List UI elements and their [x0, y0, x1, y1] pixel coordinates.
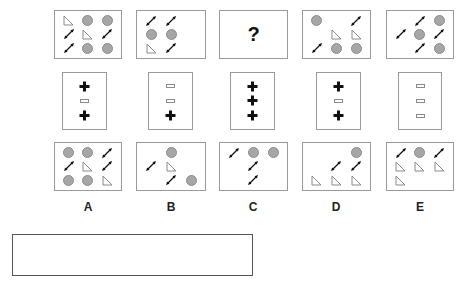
- circle-icon: [311, 15, 322, 26]
- top-box-question: ?: [219, 10, 288, 59]
- question-mark: ?: [220, 11, 287, 58]
- circle-icon: [102, 15, 113, 26]
- grid-cell: [161, 160, 181, 174]
- triangle-icon: [414, 161, 425, 172]
- option-e[interactable]: [386, 142, 454, 191]
- double-arrow-icon: [63, 160, 75, 172]
- rectangle-icon: [416, 99, 425, 103]
- option-label-a: A: [54, 200, 122, 214]
- grid-cell: [98, 28, 117, 42]
- shape-column: [317, 79, 360, 123]
- triangle-icon: [351, 175, 362, 186]
- double-arrow-icon: [145, 15, 157, 27]
- double-arrow-icon: [395, 28, 407, 40]
- grid-cell: [317, 94, 360, 109]
- circle-icon: [434, 15, 445, 26]
- grid-cell: [141, 28, 161, 42]
- circle-icon: [63, 175, 74, 186]
- plus-icon: [247, 95, 258, 106]
- grid-cell: [59, 160, 78, 174]
- grid-cell: [141, 173, 161, 187]
- double-arrow-icon: [101, 147, 113, 159]
- circle-icon: [102, 43, 113, 54]
- circle-icon: [351, 147, 362, 158]
- grid-cell: [59, 41, 78, 55]
- grid-cell: [59, 28, 78, 42]
- top-box-a: [54, 10, 122, 59]
- shape-grid: [224, 146, 283, 187]
- grid-cell: [59, 146, 78, 160]
- grid-cell: [327, 173, 347, 187]
- grid-cell: [307, 14, 327, 28]
- double-arrow-icon: [433, 28, 445, 40]
- grid-cell: [244, 146, 264, 160]
- double-arrow-icon: [433, 147, 445, 159]
- grid-cell: [141, 14, 161, 28]
- shape-column: [149, 79, 192, 123]
- shape-column: [399, 79, 441, 123]
- middle-box-c: [230, 72, 275, 130]
- grid-cell: [98, 173, 117, 187]
- double-arrow-icon: [63, 42, 75, 54]
- grid-cell: [63, 108, 106, 123]
- rectangle-icon: [80, 99, 89, 103]
- circle-icon: [414, 29, 425, 40]
- grid-cell: [346, 160, 366, 174]
- grid-cell: [161, 173, 181, 187]
- grid-cell: [327, 14, 347, 28]
- option-label-b: B: [137, 200, 205, 214]
- shape-grid: [307, 146, 366, 187]
- double-arrow-icon: [101, 28, 113, 40]
- grid-cell: [78, 41, 97, 55]
- double-arrow-icon: [395, 147, 407, 159]
- grid-cell: [224, 146, 244, 160]
- grid-cell: [98, 146, 117, 160]
- shape-grid: [141, 146, 201, 187]
- grid-cell: [181, 14, 201, 28]
- option-label-e: E: [386, 200, 454, 214]
- circle-icon: [166, 147, 177, 158]
- option-b[interactable]: [136, 142, 206, 191]
- triangle-icon: [311, 175, 322, 186]
- option-d[interactable]: [302, 142, 371, 191]
- grid-cell: [59, 14, 78, 28]
- grid-cell: [346, 41, 366, 55]
- grid-cell: [78, 28, 97, 42]
- grid-cell: [161, 41, 181, 55]
- triangle-icon: [331, 175, 342, 186]
- grid-cell: [63, 79, 106, 94]
- triangle-icon: [82, 161, 93, 172]
- plus-icon: [333, 81, 344, 92]
- circle-icon: [146, 29, 157, 40]
- grid-cell: [327, 146, 347, 160]
- grid-cell: [346, 173, 366, 187]
- answer-input-box[interactable]: [12, 234, 253, 276]
- grid-cell: [410, 173, 429, 187]
- option-label-c: C: [219, 200, 287, 214]
- shape-column: [63, 79, 106, 123]
- grid-cell: [98, 160, 117, 174]
- grid-cell: [78, 146, 97, 160]
- triangle-icon: [63, 15, 74, 26]
- shape-grid: [391, 14, 449, 55]
- circle-icon: [166, 29, 177, 40]
- option-c[interactable]: [219, 142, 288, 191]
- grid-cell: [391, 14, 410, 28]
- grid-cell: [263, 173, 283, 187]
- grid-cell: [244, 160, 264, 174]
- grid-cell: [410, 14, 429, 28]
- double-arrow-icon: [350, 15, 362, 27]
- grid-cell: [391, 160, 410, 174]
- shape-column: [231, 79, 274, 123]
- triangle-icon: [351, 29, 362, 40]
- triangle-icon: [395, 161, 406, 172]
- circle-icon: [82, 43, 93, 54]
- option-a[interactable]: [54, 142, 122, 191]
- grid-cell: [263, 160, 283, 174]
- triangle-icon: [146, 43, 157, 54]
- circle-icon: [248, 147, 259, 158]
- grid-cell: [224, 173, 244, 187]
- grid-cell: [181, 160, 201, 174]
- grid-cell: [98, 14, 117, 28]
- double-arrow-icon: [101, 160, 113, 172]
